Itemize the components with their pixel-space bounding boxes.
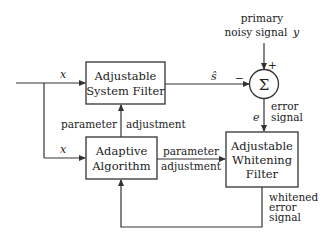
adaptive-filter-diagram: x x Adjustable System Filter ŝ − primary… (0, 0, 330, 244)
whitened-label-3: signal (269, 211, 301, 223)
adaptive-algorithm-label-2: Algorithm (91, 159, 150, 173)
param-adjust-vertical-right: adjustment (126, 118, 187, 130)
summer-minus: − (235, 72, 244, 84)
whitening-filter-label-2: Whitening (232, 153, 293, 167)
label-x-top: x (60, 68, 67, 81)
primary-label-y: y (292, 26, 300, 39)
error-label-2: signal (271, 111, 303, 123)
param-adjust-horizontal-bottom: adjustment (161, 160, 222, 172)
adaptive-algorithm-label-1: Adaptive (95, 144, 148, 158)
whitening-filter-block: Adjustable Whitening Filter (226, 132, 298, 187)
system-filter-block: Adjustable System Filter (86, 62, 165, 104)
system-filter-label-2: System Filter (86, 84, 165, 98)
whitening-filter-label-1: Adjustable (230, 139, 293, 153)
summer-plus: + (268, 59, 277, 71)
label-x-bottom: x (60, 143, 67, 156)
sigma-symbol: Σ (259, 76, 270, 94)
adaptive-algorithm-block: Adaptive Algorithm (86, 137, 157, 179)
param-adjust-horizontal-top: parameter (163, 145, 220, 157)
param-adjust-vertical-left: parameter (61, 118, 118, 130)
label-s-hat: ŝ (211, 70, 217, 83)
whitening-filter-label-3: Filter (246, 167, 279, 181)
primary-label-2: noisy signal (225, 26, 289, 38)
primary-label-1: primary (241, 12, 283, 24)
system-filter-label-1: Adjustable (94, 69, 157, 83)
summer-node: Σ (250, 70, 279, 99)
label-e: e (253, 111, 260, 124)
